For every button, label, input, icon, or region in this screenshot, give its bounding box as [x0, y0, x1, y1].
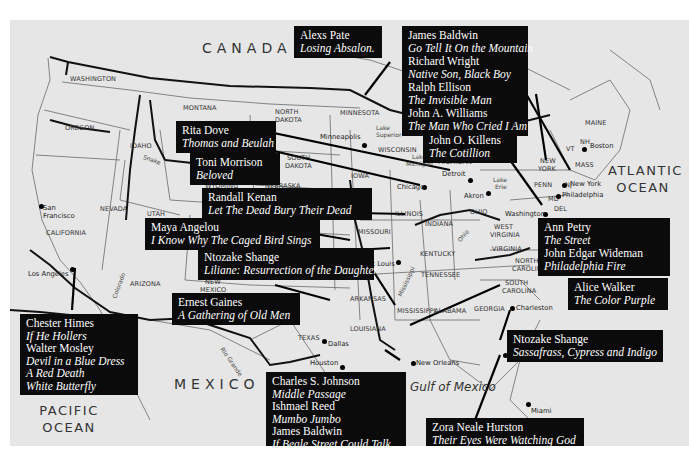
- city-akron: Akron: [464, 192, 484, 200]
- callout-author: Ann Petry: [544, 221, 665, 234]
- city-minneapolis: Minneapolis: [320, 133, 361, 141]
- callout-author: Richard Wright: [408, 55, 523, 68]
- callout-author: James Baldwin: [408, 29, 523, 42]
- city-washington: Washington: [505, 210, 545, 218]
- city-houston: Houston: [310, 359, 338, 367]
- callout-title: Native Son, Black Boy: [408, 68, 523, 81]
- state-montana: MONTANA: [183, 104, 217, 112]
- state-new-york-2: YORK: [538, 165, 556, 173]
- callout-author: John A. Williams: [408, 107, 523, 120]
- callout-walker: Alice Walker The Color Purple: [568, 278, 668, 310]
- callout-shange-liliane: Ntozake Shange Liliane: Resurrection of …: [198, 248, 374, 280]
- callout-title: Mumbo Jumbo: [272, 413, 401, 426]
- callout-author: Rita Dove: [182, 124, 271, 137]
- callout-title: The Color Purple: [574, 294, 663, 307]
- state-mississippi: MISSISSIPPI: [397, 307, 436, 315]
- city-detroit: Detroit: [442, 170, 465, 178]
- callout-title: Philadelphia Fire: [544, 260, 665, 273]
- callout-title: Middle Passage: [272, 388, 401, 401]
- state-arizona: ARIZONA: [130, 280, 160, 288]
- city-marker-dallas: [322, 339, 327, 344]
- state-georgia: GEORGIA: [474, 305, 505, 313]
- state-maine: MAINE: [585, 119, 606, 127]
- callout-title: Beloved: [196, 169, 275, 182]
- city-philadelphia: Philadelphia: [562, 191, 603, 199]
- callout-author: Ernest Gaines: [178, 296, 295, 309]
- callout-angelou: Maya Angelou I Know Why The Caged Bird S…: [145, 218, 320, 250]
- callout-dove: Rita Dove Thomas and Beulah: [176, 121, 276, 153]
- state-south-carolina-2: CAROLINA: [502, 287, 536, 295]
- callout-killens: John O. Killens The Cotillion: [423, 131, 517, 163]
- callout-title: Liliane: Resurrection of the Daughter: [204, 264, 369, 277]
- state-indiana: INDIANA: [425, 220, 453, 228]
- callout-title: Devil in a Blue Dress: [26, 355, 133, 368]
- callout-himes-mosley: Chester Himes If He Hollers Walter Mosle…: [20, 314, 138, 395]
- callout-title: The Invisible Man: [408, 94, 523, 107]
- callout-title: A Red Death: [26, 367, 133, 380]
- state-ohio: OHIO: [470, 208, 487, 216]
- city-marker-houston: [340, 365, 345, 370]
- state-oregon: OREGON: [65, 124, 94, 132]
- state-south-dakota-2: DAKOTA: [285, 162, 312, 170]
- city-marker-st-louis: [396, 260, 401, 265]
- state-south-dakota-1: SOUTH: [287, 154, 310, 162]
- callout-title: I Know Why The Caged Bird Sings: [151, 234, 315, 247]
- city-charleston: Charleston: [516, 304, 553, 312]
- state-west-virginia-2: VIRGINIA: [490, 231, 520, 239]
- callout-title: Losing Absalon.: [300, 42, 377, 55]
- region-pacific-ocean: PACIFIC OCEAN: [34, 402, 104, 436]
- callout-author: Alice Walker: [574, 281, 663, 294]
- city-miami: Miami: [531, 407, 551, 415]
- state-virginia: VIRGINIA: [492, 245, 522, 253]
- callout-title: Sassafrass, Cypress and Indigo: [513, 346, 658, 359]
- state-california: CALIFORNIA: [46, 229, 86, 237]
- lake-superior-2: Superior: [376, 131, 401, 138]
- state-arkansas: ARKANSAS: [350, 295, 386, 303]
- callout-title: The Cotillion: [429, 147, 512, 160]
- city-marker-philadelphia: [556, 194, 561, 199]
- callout-title: A Gathering of Old Men: [178, 309, 295, 322]
- callout-title: If He Hollers: [26, 330, 133, 343]
- city-marker-los-angeles: [70, 267, 75, 272]
- city-dallas: Dallas: [328, 340, 349, 348]
- callout-author: Zora Neale Hurston: [432, 421, 579, 434]
- state-mass: MASS: [575, 161, 594, 169]
- callout-author: Chester Himes: [26, 317, 133, 330]
- state-iowa: IOWA: [351, 172, 369, 180]
- region-canada: CANADA: [202, 40, 292, 56]
- callout-author: Randall Kenan: [208, 191, 367, 204]
- state-texas: TEXAS: [298, 334, 320, 342]
- state-kentucky: KENTUCKY: [420, 250, 455, 258]
- state-south-carolina-1: SOUTH: [505, 279, 528, 287]
- state-nevada: NEVADA: [100, 205, 127, 213]
- region-mexico: MEXICO: [174, 376, 259, 392]
- callout-title: Go Tell It On the Mountain: [408, 42, 523, 55]
- callout-morrison: Toni Morrison Beloved: [190, 153, 280, 185]
- state-minnesota: MINNESOTA: [340, 109, 379, 117]
- callout-petry-wideman: Ann Petry The Street John Edgar Wideman …: [538, 218, 670, 276]
- city-marker-new-york: [562, 183, 567, 188]
- callout-title: Let The Dead Bury Their Dead: [208, 204, 367, 217]
- state-idaho: IDAHO: [130, 142, 152, 150]
- state-vt: VT: [566, 145, 575, 153]
- callout-kenan: Randall Kenan Let The Dead Bury Their De…: [202, 188, 372, 220]
- callout-gaines: Ernest Gaines A Gathering of Old Men: [172, 293, 300, 325]
- callout-title: The Street: [544, 234, 665, 247]
- city-marker-minneapolis: [362, 143, 367, 148]
- callout-author: Charles S. Johnson: [272, 375, 401, 388]
- lake-erie-2: Erie: [495, 183, 507, 190]
- city-marker-detroit: [468, 178, 473, 183]
- callout-author: John Edgar Wideman: [544, 247, 665, 260]
- state-del: DEL: [554, 205, 567, 213]
- state-new-york-1: NEW: [540, 157, 556, 165]
- state-missouri: MISSOURI: [358, 228, 391, 236]
- callout-title: White Butterfly: [26, 380, 133, 393]
- state-nh: NH: [580, 138, 590, 146]
- callout-author: John O. Killens: [429, 134, 512, 147]
- city-san-francisco-1: San: [43, 204, 56, 212]
- literary-map: CANADA MEXICO PACIFIC OCEAN ATLANTIC OCE…: [10, 20, 689, 446]
- lake-erie-1: Lake: [493, 176, 507, 183]
- state-washington: WASHINGTON: [70, 75, 116, 83]
- state-louisiana: LOUISIANA: [350, 325, 386, 333]
- callout-shange-sassafrass: Ntozake Shange Sassafrass, Cypress and I…: [507, 330, 663, 362]
